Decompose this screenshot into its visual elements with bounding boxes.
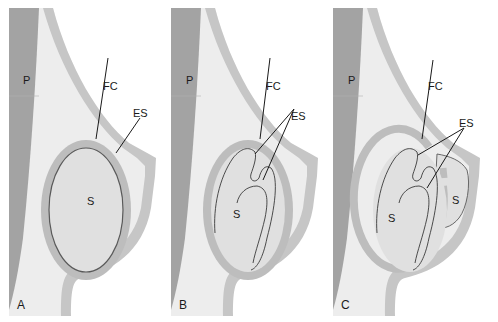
shell-label: ES	[291, 110, 306, 122]
capsule-label: FC	[428, 80, 443, 92]
shell-label: ES	[133, 107, 148, 119]
panel-b: P FC ES S B	[171, 8, 318, 316]
implant-intact	[49, 148, 123, 272]
extracapsular-silicone-label: S	[452, 194, 459, 206]
silicone-label: S	[87, 195, 94, 207]
panel-c: P FC ES S S C	[333, 8, 480, 316]
panel-label-c: C	[341, 298, 350, 312]
figure-canvas: P FC ES S A P FC ES S B	[0, 0, 498, 322]
muscle-label: P	[348, 74, 355, 86]
shell-label: ES	[459, 117, 474, 129]
capsule-fragment	[443, 168, 444, 178]
muscle-label: P	[23, 74, 30, 86]
muscle-label: P	[186, 74, 193, 86]
panel-a: P FC ES S A	[9, 8, 156, 316]
capsule-label: FC	[103, 80, 118, 92]
silicone-label: S	[388, 212, 395, 224]
panel-label-a: A	[17, 298, 25, 312]
capsule-label: FC	[266, 80, 281, 92]
panel-label-b: B	[179, 298, 187, 312]
silicone-within-capsule	[211, 148, 285, 272]
silicone-label: S	[233, 208, 240, 220]
silicone-within-capsule	[373, 148, 447, 272]
